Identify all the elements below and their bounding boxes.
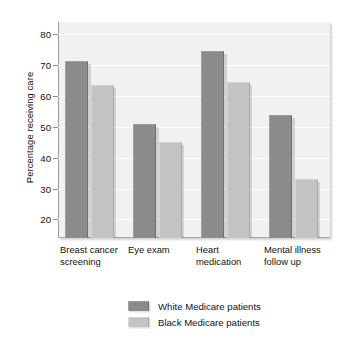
y-axis-tick-mark (53, 34, 58, 35)
bar (295, 179, 318, 238)
bar-fill (269, 115, 292, 238)
bar (269, 115, 292, 238)
bar-group (58, 22, 126, 238)
x-axis-category-label: Breast cancer screening (60, 244, 118, 267)
plot-inner (58, 22, 330, 238)
bar-chart: Percentage receiving care 20304050607080… (0, 0, 351, 351)
bar-group (126, 22, 194, 238)
y-axis-tick-label: 60 (40, 91, 51, 102)
plot-area: 20304050607080 (58, 22, 330, 238)
legend-swatch (128, 317, 149, 327)
x-axis-category-label: Eye exam (128, 244, 170, 256)
y-axis-tick-label: 80 (40, 29, 51, 40)
y-axis-tick-label: 70 (40, 60, 51, 71)
y-axis-tick-mark (53, 127, 58, 128)
bar-fill (65, 61, 88, 238)
bar (159, 142, 182, 238)
legend-item: White Medicare patients (0, 298, 351, 314)
bar-fill (295, 179, 318, 238)
bar-fill (201, 51, 224, 238)
bar (65, 61, 88, 238)
y-axis-tick-mark (53, 96, 58, 97)
chart-legend: White Medicare patientsBlack Medicare pa… (0, 298, 351, 330)
y-axis-tick-mark (53, 158, 58, 159)
legend-swatch (128, 301, 149, 311)
x-axis-category-labels: Breast cancer screeningEye examHeart med… (58, 244, 330, 278)
y-axis-tick-label: 30 (40, 183, 51, 194)
legend-label: White Medicare patients (158, 301, 261, 312)
y-axis-tick-label: 20 (40, 214, 51, 225)
bar-fill (159, 142, 182, 238)
legend-item: Black Medicare patients (0, 314, 351, 330)
legend-label: Black Medicare patients (158, 317, 260, 328)
y-axis-tick-label: 50 (40, 121, 51, 132)
x-axis-category-label: Mental illness follow up (264, 244, 321, 267)
bar-fill (133, 124, 156, 238)
y-axis-tick-mark (53, 219, 58, 220)
x-axis-category-label: Heart medication (196, 244, 241, 267)
bar-group (262, 22, 330, 238)
y-axis-tick-mark (53, 189, 58, 190)
bar-fill (227, 82, 250, 238)
bar (133, 124, 156, 238)
bar-fill (91, 85, 114, 238)
y-axis-title: Percentage receiving care (24, 23, 35, 233)
y-axis-tick-mark (53, 65, 58, 66)
y-axis-tick-label: 40 (40, 152, 51, 163)
bar (227, 82, 250, 238)
bar (91, 85, 114, 238)
bar-group (194, 22, 262, 238)
bar (201, 51, 224, 238)
